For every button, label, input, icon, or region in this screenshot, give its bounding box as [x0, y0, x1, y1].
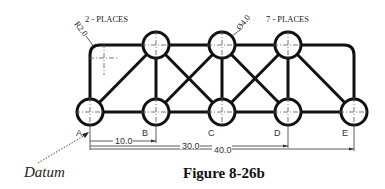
datum-arrow-icon	[82, 132, 89, 138]
point-label-b: B	[142, 128, 148, 138]
point-label-c: C	[208, 128, 215, 138]
diameter-callout: Ø4.0	[234, 13, 252, 32]
figure-caption: Figure 8-26b	[183, 165, 265, 181]
dimension-30: 30.0	[182, 141, 200, 151]
point-label-e: E	[342, 128, 348, 138]
diameter-places-note: 7 - PLACES	[266, 14, 309, 24]
datum-label: Datum	[23, 164, 65, 180]
dimension-10: 10.0	[115, 136, 133, 146]
radius-places-note: 2 - PLACES	[85, 14, 128, 24]
point-label-d: D	[274, 128, 281, 138]
dimension-40: 40.0	[214, 145, 232, 155]
point-label-a: A	[76, 128, 82, 138]
truss-drawing: 2 - PLACES R2.0 Ø4.0 7 - PLACES A B C D …	[0, 0, 385, 189]
